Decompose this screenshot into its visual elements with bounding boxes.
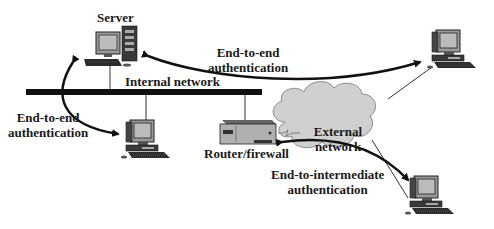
e2e-remote-label-line1: End-to-end: [208, 45, 288, 60]
internal-workstation-icon: [121, 120, 170, 159]
e2e-internal-label-line1: End-to-end: [8, 110, 88, 125]
server-icon: [84, 26, 137, 67]
internal-network-label: Internal network: [125, 74, 220, 89]
remote-top-link: [388, 67, 432, 99]
external-network-label: External network: [313, 124, 363, 154]
router-firewall-label: Router/firewall: [204, 146, 289, 161]
e2i-router-label: End-to-intermediate authentication: [271, 167, 384, 197]
external-network-label-line2: network: [313, 139, 363, 154]
e2e-internal-label-line2: authentication: [8, 125, 88, 140]
server-label: Server: [97, 10, 134, 25]
e2e-remote-label: End-to-end authentication: [208, 45, 288, 75]
remote-workstation-bottom-icon: [405, 176, 454, 215]
e2e-internal-label: End-to-end authentication: [8, 110, 88, 140]
e2i-router-label-line1: End-to-intermediate: [271, 167, 384, 182]
remote-workstation-top-icon: [427, 30, 476, 69]
router-firewall-icon: [220, 120, 276, 144]
e2i-router-label-line2: authentication: [271, 182, 384, 197]
e2e-remote-label-line2: authentication: [208, 60, 288, 75]
external-network-label-line1: External: [313, 124, 363, 139]
